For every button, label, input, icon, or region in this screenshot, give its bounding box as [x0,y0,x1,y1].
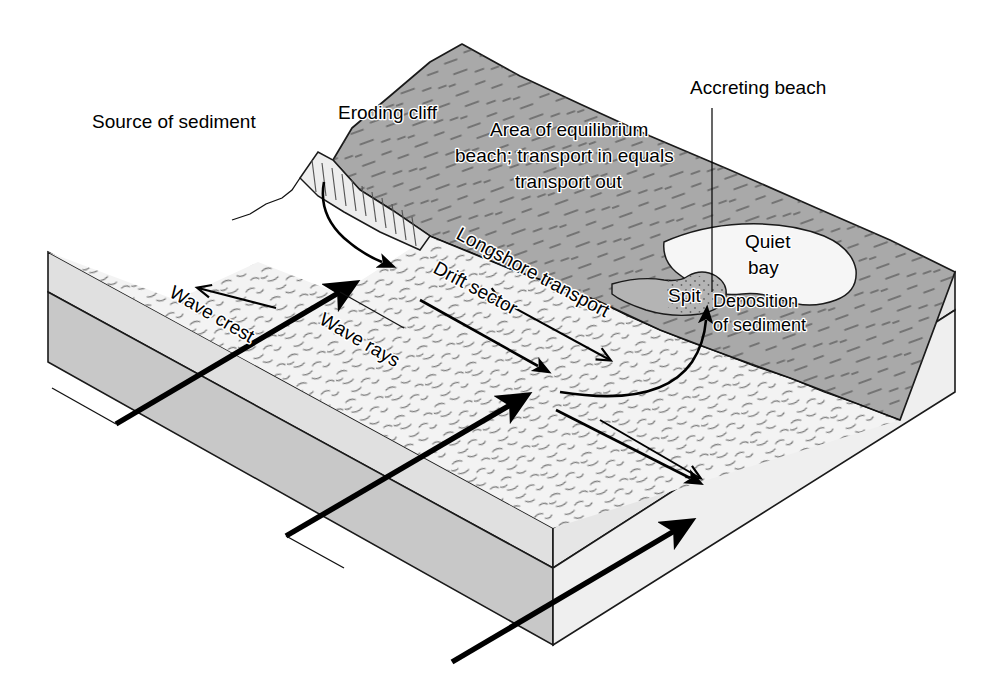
cliff-base-edge [232,178,300,220]
coastal-block-diagram: Source of sediment Eroding cliff Accreti… [0,0,996,690]
equilibrium-line-3: transport out [515,171,622,192]
label-accreting-beach: Accreting beach [690,77,826,98]
quiet-bay-line-2: bay [748,257,779,278]
equilibrium-line-2: beach; transport in equals [455,145,674,166]
deposition-line-2: of sediment [713,315,806,335]
equilibrium-line-1: Area of equilibrium [490,119,648,140]
quiet-bay-line-1: Quiet [745,231,791,252]
label-eroding-cliff: Eroding cliff [338,102,438,123]
deposition-line-1: Deposition [713,291,798,311]
label-source-of-sediment: Source of sediment [92,111,256,132]
figure-canvas: Source of sediment Eroding cliff Accreti… [0,0,996,690]
label-spit: Spit [668,285,701,306]
wave-crest-line [286,536,344,568]
